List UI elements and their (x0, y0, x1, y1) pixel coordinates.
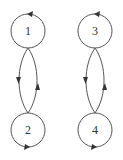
component-1-2: 1 2 (11, 11, 45, 150)
node-3-label: 3 (92, 24, 98, 38)
node-1-self-loop-arrowhead-icon (27, 11, 33, 17)
node-4: 4 (78, 113, 112, 150)
edge-1-to-2 (19, 48, 28, 113)
node-4-label: 4 (92, 123, 98, 137)
node-4-self-loop-arrowhead-icon (91, 144, 97, 150)
edge-3-to-4-arrowhead-icon (83, 77, 88, 84)
state-diagram: 1 2 3 4 (0, 0, 123, 160)
edge-2-to-1-arrowhead-icon (35, 83, 40, 90)
node-2: 2 (11, 113, 45, 150)
component-3-4: 3 4 (78, 11, 112, 150)
edge-3-to-4 (86, 48, 95, 113)
edge-2-to-1 (28, 48, 37, 113)
edge-4-to-3-arrowhead-icon (102, 83, 107, 90)
edge-4-to-3 (95, 48, 104, 113)
node-2-self-loop-arrowhead-icon (24, 144, 30, 150)
node-1: 1 (11, 11, 45, 48)
node-2-label: 2 (25, 123, 31, 137)
node-3: 3 (78, 11, 112, 48)
node-1-label: 1 (25, 24, 31, 38)
node-3-self-loop-arrowhead-icon (94, 11, 100, 17)
edge-1-to-2-arrowhead-icon (16, 77, 21, 84)
